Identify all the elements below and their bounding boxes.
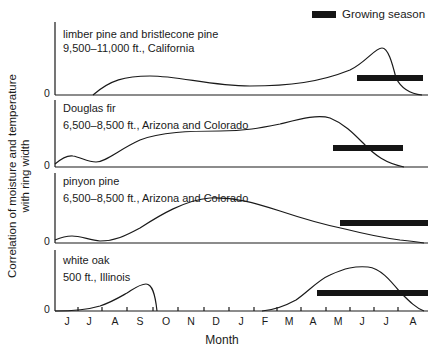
panel-3-subtitle: 6,500–8,500 ft., Arizona and Colorado [63,191,248,205]
panel-1-label: limber pine and bristlecone pine 9,500–1… [63,27,218,55]
month-label: J [64,315,69,327]
panel-1-subtitle: 9,500–11,000 ft., California [63,41,218,55]
growing-season-bar-3 [340,220,428,226]
month-label: A [309,315,316,327]
month-label: O [162,315,170,327]
growing-season-bar-2 [333,145,403,151]
panel-2-subtitle: 6,500–8,500 ft., Arizona and Colorado [63,118,248,132]
month-label: F [262,315,268,327]
month-label: M [285,315,294,327]
month-label: J [359,315,364,327]
zero-label-panel-2: 0 [44,159,50,171]
panel-4-label: white oak 500 ft., Illinois [63,253,130,284]
month-label: A [409,315,416,327]
month-label: J [86,315,91,327]
curve-white-oak-2 [262,267,424,311]
month-label: J [238,315,243,327]
month-label: A [111,315,118,327]
zero-label-panel-1: 0 [44,87,50,99]
panel-2-label: Douglas fir 6,500–8,500 ft., Arizona and… [63,101,248,132]
panel-4-title: white oak [63,253,130,267]
month-label: S [136,315,143,327]
zero-label-panel-4: 0 [44,303,50,315]
curve-white-oak [55,284,157,311]
panel-2-title: Douglas fir [63,101,248,115]
panel-4-subtitle: 500 ft., Illinois [63,270,130,284]
growing-season-bars [317,75,428,296]
panel-1-title: limber pine and bristlecone pine [63,27,218,41]
month-label: M [334,315,343,327]
panel-3-label: pinyon pine 6,500–8,500 ft., Arizona and… [63,174,248,205]
month-label: D [212,315,220,327]
x-axis-title: Month [205,333,238,347]
month-label: J [383,315,388,327]
month-label: N [187,315,195,327]
growing-season-bar-4 [317,290,428,296]
panel-3-title: pinyon pine [63,174,248,188]
zero-label-panel-3: 0 [44,235,50,247]
curve-limber-bristlecone [93,48,422,95]
growing-season-bar-1 [357,75,423,81]
